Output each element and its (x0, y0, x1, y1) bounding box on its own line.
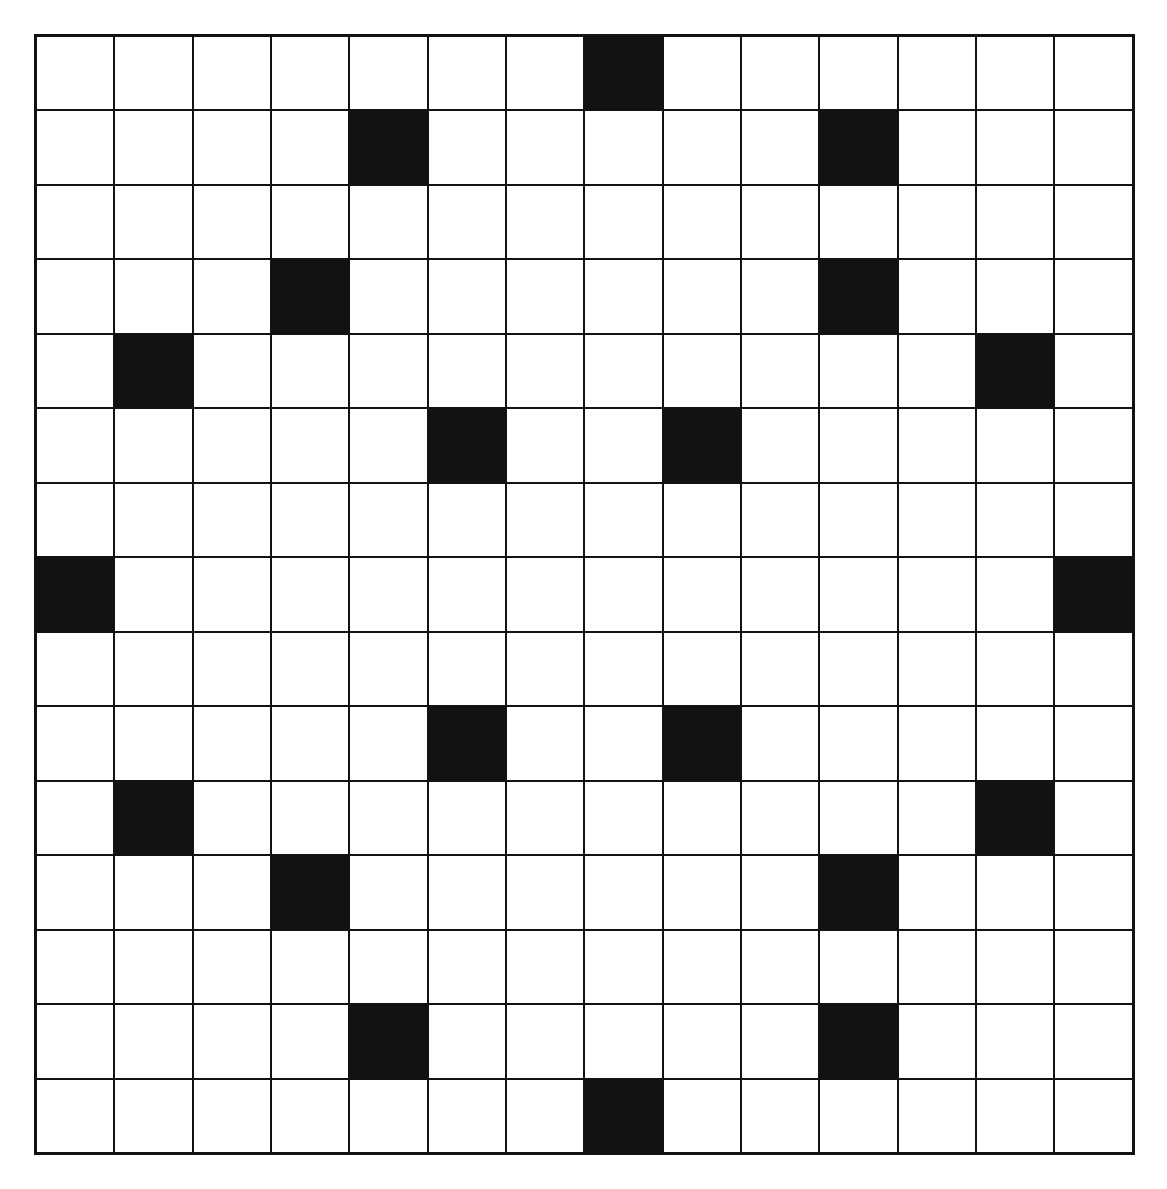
grid-cell-empty[interactable] (741, 706, 819, 781)
grid-cell-empty[interactable] (193, 408, 271, 483)
grid-cell-empty[interactable] (1054, 185, 1133, 260)
grid-cell-empty[interactable] (193, 334, 271, 409)
grid-cell-filled[interactable] (819, 855, 897, 930)
grid-cell-filled[interactable] (271, 259, 349, 334)
grid-cell-empty[interactable] (976, 185, 1054, 260)
grid-cell-empty[interactable] (271, 1004, 349, 1079)
grid-cell-empty[interactable] (428, 110, 506, 185)
grid-cell-empty[interactable] (193, 557, 271, 632)
grid-cell-empty[interactable] (1054, 36, 1133, 111)
grid-cell-empty[interactable] (349, 632, 427, 707)
grid-cell-empty[interactable] (584, 557, 662, 632)
grid-cell-empty[interactable] (741, 185, 819, 260)
grid-cell-empty[interactable] (36, 781, 115, 856)
grid-cell-filled[interactable] (36, 557, 115, 632)
grid-cell-empty[interactable] (506, 36, 584, 111)
grid-cell-empty[interactable] (819, 706, 897, 781)
grid-cell-empty[interactable] (271, 1079, 349, 1154)
grid-cell-empty[interactable] (36, 483, 115, 558)
grid-cell-empty[interactable] (349, 855, 427, 930)
grid-cell-empty[interactable] (663, 781, 741, 856)
grid-cell-empty[interactable] (741, 1079, 819, 1154)
grid-cell-empty[interactable] (976, 110, 1054, 185)
grid-cell-empty[interactable] (114, 1079, 192, 1154)
grid-cell-empty[interactable] (428, 1004, 506, 1079)
grid-cell-filled[interactable] (428, 706, 506, 781)
grid-cell-empty[interactable] (584, 408, 662, 483)
grid-cell-empty[interactable] (819, 1079, 897, 1154)
grid-cell-filled[interactable] (271, 855, 349, 930)
grid-cell-empty[interactable] (663, 36, 741, 111)
grid-cell-empty[interactable] (741, 334, 819, 409)
grid-cell-empty[interactable] (428, 557, 506, 632)
grid-cell-filled[interactable] (349, 110, 427, 185)
grid-cell-empty[interactable] (36, 1079, 115, 1154)
grid-cell-empty[interactable] (506, 1004, 584, 1079)
grid-cell-empty[interactable] (741, 930, 819, 1005)
grid-cell-empty[interactable] (193, 632, 271, 707)
grid-cell-empty[interactable] (584, 483, 662, 558)
grid-cell-empty[interactable] (114, 408, 192, 483)
grid-cell-empty[interactable] (898, 930, 976, 1005)
grid-cell-empty[interactable] (349, 706, 427, 781)
grid-cell-empty[interactable] (428, 36, 506, 111)
grid-cell-empty[interactable] (428, 632, 506, 707)
grid-cell-empty[interactable] (36, 930, 115, 1005)
grid-cell-empty[interactable] (349, 930, 427, 1005)
grid-cell-filled[interactable] (976, 781, 1054, 856)
grid-cell-empty[interactable] (1054, 855, 1133, 930)
grid-cell-empty[interactable] (428, 781, 506, 856)
grid-cell-filled[interactable] (819, 110, 897, 185)
grid-cell-empty[interactable] (36, 334, 115, 409)
grid-cell-filled[interactable] (819, 259, 897, 334)
grid-cell-empty[interactable] (898, 1079, 976, 1154)
grid-cell-empty[interactable] (976, 557, 1054, 632)
grid-cell-filled[interactable] (584, 36, 662, 111)
grid-cell-empty[interactable] (663, 632, 741, 707)
grid-cell-filled[interactable] (349, 1004, 427, 1079)
grid-cell-empty[interactable] (114, 855, 192, 930)
grid-cell-empty[interactable] (193, 259, 271, 334)
grid-cell-empty[interactable] (114, 185, 192, 260)
grid-cell-empty[interactable] (506, 110, 584, 185)
grid-cell-empty[interactable] (898, 110, 976, 185)
grid-cell-empty[interactable] (1054, 781, 1133, 856)
grid-cell-empty[interactable] (741, 259, 819, 334)
grid-cell-empty[interactable] (819, 334, 897, 409)
grid-cell-empty[interactable] (36, 185, 115, 260)
grid-cell-empty[interactable] (349, 334, 427, 409)
grid-cell-empty[interactable] (36, 36, 115, 111)
grid-cell-empty[interactable] (36, 706, 115, 781)
grid-cell-empty[interactable] (349, 259, 427, 334)
grid-cell-empty[interactable] (36, 408, 115, 483)
grid-cell-empty[interactable] (1054, 1004, 1133, 1079)
grid-cell-empty[interactable] (193, 930, 271, 1005)
grid-cell-empty[interactable] (271, 930, 349, 1005)
grid-cell-empty[interactable] (898, 483, 976, 558)
grid-cell-empty[interactable] (349, 781, 427, 856)
grid-cell-empty[interactable] (36, 1004, 115, 1079)
grid-cell-empty[interactable] (819, 781, 897, 856)
grid-cell-empty[interactable] (193, 706, 271, 781)
grid-cell-empty[interactable] (271, 110, 349, 185)
grid-cell-empty[interactable] (819, 930, 897, 1005)
grid-cell-empty[interactable] (898, 185, 976, 260)
grid-cell-empty[interactable] (428, 483, 506, 558)
grid-cell-empty[interactable] (506, 185, 584, 260)
grid-cell-empty[interactable] (663, 1004, 741, 1079)
grid-cell-empty[interactable] (193, 483, 271, 558)
grid-cell-empty[interactable] (271, 483, 349, 558)
grid-cell-empty[interactable] (506, 930, 584, 1005)
grid-cell-empty[interactable] (663, 855, 741, 930)
grid-cell-empty[interactable] (271, 632, 349, 707)
grid-cell-filled[interactable] (584, 1079, 662, 1154)
grid-cell-empty[interactable] (898, 36, 976, 111)
grid-cell-empty[interactable] (506, 334, 584, 409)
grid-cell-empty[interactable] (741, 110, 819, 185)
grid-cell-empty[interactable] (1054, 334, 1133, 409)
grid-cell-empty[interactable] (428, 259, 506, 334)
grid-cell-empty[interactable] (349, 36, 427, 111)
grid-cell-empty[interactable] (663, 1079, 741, 1154)
grid-cell-empty[interactable] (819, 483, 897, 558)
grid-cell-empty[interactable] (114, 259, 192, 334)
